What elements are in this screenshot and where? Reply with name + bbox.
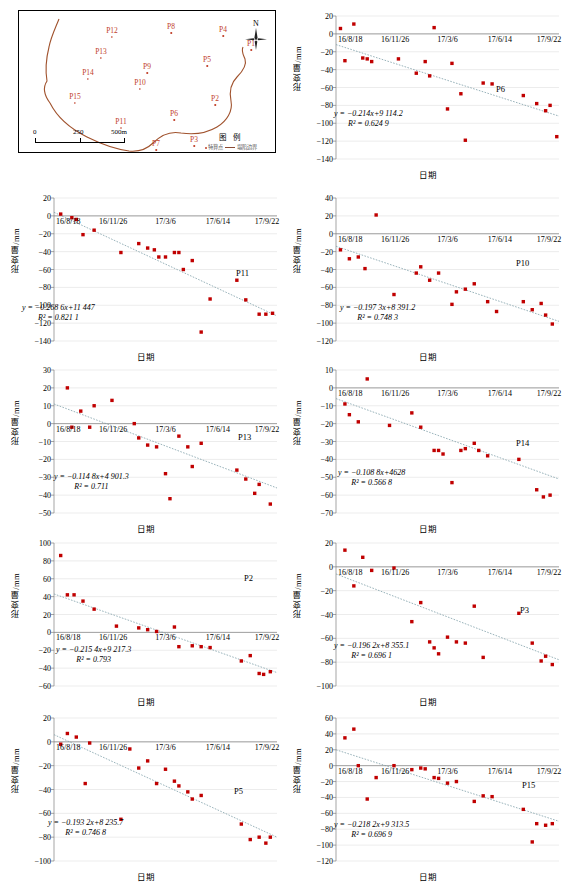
x-axis-label: 日期 <box>8 870 283 882</box>
data-point <box>473 800 476 803</box>
x-tick-label: 17/3/6 <box>437 389 457 398</box>
map-point-label: P5 <box>203 55 211 64</box>
x-tick-label: 17/6/14 <box>206 743 230 752</box>
x-tick-label: 17/9/22 <box>255 633 279 642</box>
map-point-P12: P12 <box>106 27 118 35</box>
y-tick-label: −120 <box>316 337 333 346</box>
data-point <box>535 102 538 105</box>
y-tick-label: −20 <box>38 761 51 770</box>
data-point <box>477 449 480 452</box>
scale-tick-500: 500m <box>111 128 127 136</box>
data-point <box>199 442 202 445</box>
data-point <box>128 747 131 750</box>
x-tick-label: 17/6/14 <box>206 633 230 642</box>
data-point <box>473 604 476 607</box>
data-point <box>522 300 525 303</box>
data-point <box>419 426 422 429</box>
chart-panel-P2: 形变量/mm日期100806040200−20−40−6016/8/1816/1… <box>8 533 283 708</box>
data-point <box>397 57 400 60</box>
data-point <box>146 628 149 631</box>
data-point <box>92 228 95 231</box>
x-tick-label: 16/11/26 <box>99 633 127 642</box>
data-point <box>173 779 176 782</box>
data-point <box>264 312 267 315</box>
data-point <box>339 27 342 30</box>
data-point <box>146 759 149 762</box>
map-scale-bar: 0 250 500m <box>33 128 139 148</box>
y-tick-label: −140 <box>316 155 333 164</box>
map-point-P9: P9 <box>143 63 151 71</box>
y-tick-label: −20 <box>38 646 51 655</box>
r-squared-value: R² = 0.696 1 <box>334 651 409 661</box>
data-point <box>415 271 418 274</box>
point-marker-icon <box>146 72 148 74</box>
series-label-P11: P11 <box>236 268 249 278</box>
legend-line-label: 塌陷边界 <box>237 144 257 150</box>
x-tick-label: 16/11/26 <box>99 743 127 752</box>
x-tick-label: 17/3/6 <box>155 217 175 226</box>
data-point <box>249 654 252 657</box>
data-point <box>155 782 158 785</box>
data-point <box>81 233 84 236</box>
x-tick-label: 17/3/6 <box>437 767 457 776</box>
map-point-P4: P4 <box>219 26 227 34</box>
legend-title: 图 例 <box>193 131 269 142</box>
data-point <box>473 442 476 445</box>
map-point-label: P11 <box>115 117 126 126</box>
y-tick-label: −80 <box>320 658 333 667</box>
data-point <box>366 57 369 60</box>
regression-annotation: y = −0.193 2x+8 235.7R² = 0.746 8 <box>48 818 123 838</box>
map-point-P8: P8 <box>167 23 175 31</box>
data-point <box>110 399 113 402</box>
data-point <box>374 213 377 216</box>
data-point <box>79 409 82 412</box>
data-point <box>240 822 243 825</box>
regression-equation: y = −0.218 2x+9 313.5 <box>334 820 409 830</box>
data-point <box>186 790 189 793</box>
y-tick-label: 0 <box>329 29 333 38</box>
y-tick-label: −40 <box>320 265 333 274</box>
x-tick-label: 17/6/14 <box>488 35 512 44</box>
y-tick-label: 20 <box>43 194 51 203</box>
data-point <box>522 94 525 97</box>
data-point <box>424 60 427 63</box>
data-point <box>450 481 453 484</box>
y-tick-label: 80 <box>43 556 51 565</box>
map-point-label: P8 <box>167 22 175 31</box>
data-point <box>186 445 189 448</box>
y-tick-label: 0 <box>329 761 333 770</box>
data-point <box>164 768 167 771</box>
data-point <box>137 242 140 245</box>
data-point <box>486 300 489 303</box>
y-tick-label: −100 <box>316 682 333 691</box>
regression-annotation: y = −0.218 2x+9 313.5R² = 0.696 9 <box>334 820 409 840</box>
y-tick-label: −20 <box>320 777 333 786</box>
y-tick-label: −100 <box>316 841 333 850</box>
data-point <box>348 413 351 416</box>
data-point <box>388 424 391 427</box>
y-tick-label: −20 <box>38 229 51 238</box>
x-tick-label: 16/8/18 <box>338 568 362 577</box>
data-point <box>146 443 149 446</box>
x-tick-label: 17/6/14 <box>488 235 512 244</box>
data-point <box>539 302 542 305</box>
y-tick-label: 10 <box>325 366 333 375</box>
data-point <box>262 673 265 676</box>
data-point <box>343 402 346 405</box>
data-point <box>544 824 547 827</box>
data-point <box>544 109 547 112</box>
y-tick-label: −60 <box>38 682 51 691</box>
data-point <box>66 593 69 596</box>
data-point <box>531 840 534 843</box>
data-point <box>352 584 355 587</box>
data-point <box>531 308 534 311</box>
y-tick-label: 100 <box>39 539 51 548</box>
data-point <box>551 663 554 666</box>
y-tick-label: 60 <box>325 714 333 723</box>
regression-annotation: y = −0.268 6x+11 447R² = 0.821 1 <box>22 303 95 323</box>
x-tick-label: 16/11/26 <box>99 425 127 434</box>
y-tick-label: −20 <box>320 419 333 428</box>
data-point <box>177 434 180 437</box>
data-point <box>437 271 440 274</box>
monitoring-point-map: P12 P8 P4 P1 P13 P5 P9 P14 P10 P15 P2 P6… <box>8 6 283 174</box>
